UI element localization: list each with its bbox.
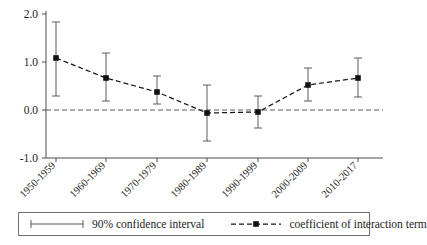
y-tick-label-1: 1.0: [24, 56, 39, 68]
y-axis: 2.0 1.0 0.0 -1.0: [20, 8, 46, 164]
data-point-2000-2009: [305, 82, 311, 88]
x-tick-label-1960-1969: 1960-1969: [67, 160, 107, 200]
data-point-1960-1969: [103, 75, 109, 81]
confidence-interval-key-icon: [29, 218, 85, 230]
y-tick-label-neg1: -1.0: [20, 152, 38, 164]
y-tick-label-2: 2.0: [24, 8, 39, 20]
data-point-1980-1989: [204, 110, 210, 116]
confidence-interval-bars: [52, 22, 362, 141]
x-tick-label-1970-1979: 1970-1979: [118, 160, 158, 200]
x-tick-label-2000-2009: 2000-2009: [269, 160, 309, 200]
coefficient-line-key-icon: [230, 218, 282, 230]
legend-label-confidence-interval: 90% confidence interval: [92, 218, 204, 230]
x-tick-label-1950-1959: 1950-1959: [17, 160, 57, 200]
y-tick-label-0: 0.0: [24, 104, 39, 116]
legend-entry-confidence-interval: 90% confidence interval: [29, 218, 204, 230]
y-axis-ticks: [42, 14, 46, 158]
data-point-1950-1959: [53, 55, 59, 61]
legend-label-coefficient: coefficient of interaction term: [289, 218, 426, 230]
data-point-1990-1999: [255, 109, 261, 115]
data-point-1970-1979: [154, 89, 160, 95]
legend-entry-coefficient: coefficient of interaction term: [230, 218, 426, 230]
x-tick-label-1980-1989: 1980-1989: [168, 160, 208, 200]
chart-legend: 90% confidence interval coefficient of i…: [18, 212, 370, 236]
x-axis: 1950-1959 1960-1969 1970-1979 1980-1989 …: [17, 158, 383, 200]
data-point-2010-2017: [355, 75, 361, 81]
x-tick-label-2010-2017: 2010-2017: [319, 160, 359, 200]
x-tick-label-1990-1999: 1990-1999: [219, 160, 259, 200]
